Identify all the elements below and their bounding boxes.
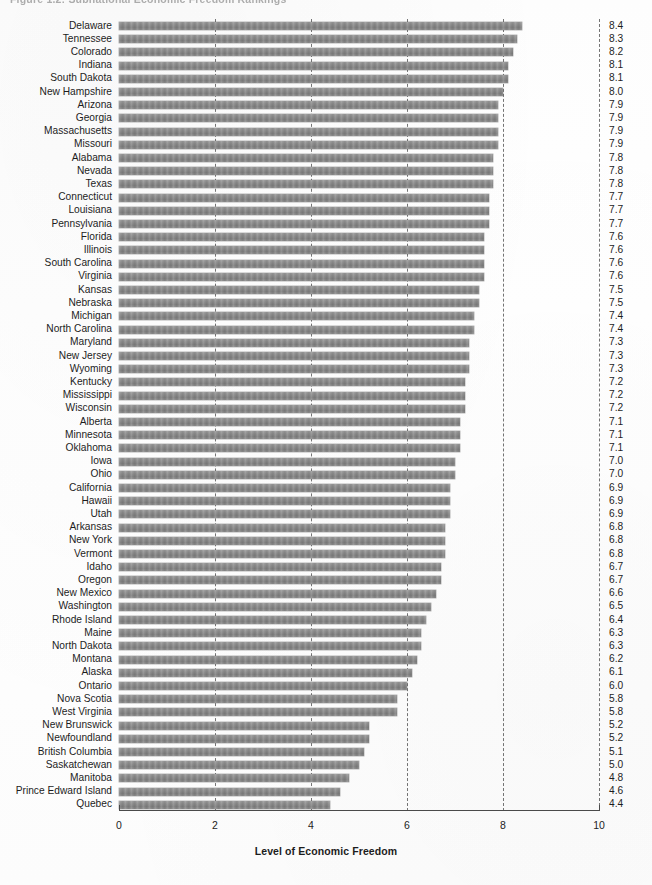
bar-value-label: 6.5 (609, 599, 623, 612)
bar (119, 128, 498, 136)
bar-row: Virginia7.6 (119, 270, 599, 283)
bar-row: Nova Scotia5.8 (119, 692, 599, 705)
bar-category-label: Nebraska (68, 296, 112, 309)
bar-value-label: 4.8 (609, 771, 623, 784)
bar-row: Arizona7.9 (119, 98, 599, 111)
bar-row: Michigan7.4 (119, 309, 599, 322)
bar-row: Pennsylvania7.7 (119, 217, 599, 230)
bar-value-label: 7.4 (609, 309, 623, 322)
bar (119, 801, 330, 809)
bar-value-label: 8.4 (609, 19, 623, 32)
bar-value-label: 6.9 (609, 494, 623, 507)
bar-value-label: 5.2 (609, 731, 623, 744)
bar-row: Texas7.8 (119, 177, 599, 190)
bar (119, 88, 503, 96)
bar (119, 365, 469, 373)
bar (119, 207, 489, 215)
bar (119, 748, 364, 756)
bar (119, 550, 445, 558)
bar-value-label: 7.3 (609, 362, 623, 375)
bar (119, 141, 498, 149)
bar-value-label: 7.5 (609, 283, 623, 296)
bar (119, 22, 522, 30)
bar-category-label: Prince Edward Island (16, 784, 112, 797)
bar-row: Massachusetts7.9 (119, 125, 599, 138)
bar-category-label: Hawaii (81, 494, 112, 507)
bar-row: Colorado8.2 (119, 45, 599, 58)
bar (119, 246, 484, 254)
bar (119, 708, 397, 716)
bar-value-label: 8.0 (609, 85, 623, 98)
bar-category-label: Manitoba (70, 771, 112, 784)
bar-category-label: Tennessee (63, 32, 112, 45)
bar-category-label: Washington (59, 599, 112, 612)
bar-row: Alabama7.8 (119, 151, 599, 164)
bar (119, 180, 493, 188)
bar (119, 75, 508, 83)
bar-row: Mississippi7.2 (119, 389, 599, 402)
bar-value-label: 7.8 (609, 164, 623, 177)
bar-row: Florida7.6 (119, 230, 599, 243)
bar-row: South Dakota8.1 (119, 72, 599, 85)
bar-row: North Dakota6.3 (119, 639, 599, 652)
bar-row: Louisiana7.7 (119, 204, 599, 217)
bar-category-label: Ohio (90, 467, 112, 480)
bar (119, 299, 479, 307)
bar-value-label: 7.7 (609, 203, 623, 216)
bar (119, 418, 460, 426)
x-tick-label-6: 6 (404, 819, 410, 831)
bar-value-label: 6.7 (609, 573, 623, 586)
bar (119, 35, 517, 43)
bar-value-label: 7.9 (609, 124, 623, 137)
bar-value-label: 7.6 (609, 230, 623, 243)
bar-value-label: 8.2 (609, 45, 623, 58)
bar (119, 431, 460, 439)
bar-row: New Jersey7.3 (119, 349, 599, 362)
bar-row: New Brunswick5.2 (119, 719, 599, 732)
bar (119, 695, 397, 703)
bar (119, 537, 445, 545)
bar-category-label: Indiana (79, 58, 112, 71)
bar (119, 167, 493, 175)
bar-category-label: Arkansas (70, 520, 112, 533)
bar-value-label: 6.1 (609, 665, 623, 678)
bar-row: Wisconsin7.2 (119, 402, 599, 415)
bar-value-label: 6.8 (609, 547, 623, 560)
bar-row: Alberta7.1 (119, 415, 599, 428)
bar-value-label: 7.2 (609, 401, 623, 414)
bar-row: North Carolina7.4 (119, 323, 599, 336)
bar (119, 524, 445, 532)
bar (119, 761, 359, 769)
bar-value-label: 6.3 (609, 639, 623, 652)
bar-category-label: New Hampshire (40, 85, 112, 98)
bar-row: Idaho6.7 (119, 560, 599, 573)
bar-row: Georgia7.9 (119, 111, 599, 124)
bar-row: Newfoundland5.2 (119, 732, 599, 745)
bar (119, 48, 513, 56)
bar-chart-plot-area: Delaware8.4Tennessee8.3Colorado8.2Indian… (119, 19, 599, 811)
bar (119, 458, 455, 466)
bar-value-label: 7.0 (609, 467, 623, 480)
bar-category-label: Rhode Island (52, 613, 112, 626)
bar-category-label: Illinois (84, 243, 112, 256)
bar-value-label: 7.9 (609, 111, 623, 124)
bar-row: Iowa7.0 (119, 455, 599, 468)
bar-category-label: Wisconsin (66, 401, 112, 414)
bar (119, 629, 421, 637)
bar-category-label: Minnesota (65, 428, 112, 441)
bar-category-label: North Dakota (52, 639, 112, 652)
bar (119, 326, 474, 334)
bar-value-label: 6.7 (609, 560, 623, 573)
bar-category-label: Louisiana (68, 203, 112, 216)
bar-value-label: 7.6 (609, 269, 623, 282)
bar-row: Ohio7.0 (119, 468, 599, 481)
bar (119, 392, 465, 400)
bar (119, 471, 455, 479)
bar-category-label: South Dakota (50, 71, 112, 84)
bar-row: Quebec4.4 (119, 798, 599, 811)
bar-value-label: 7.5 (609, 296, 623, 309)
x-axis-left-cap (119, 805, 120, 811)
bar-value-label: 7.2 (609, 388, 623, 401)
bar (119, 220, 489, 228)
bar-row: Arkansas6.8 (119, 521, 599, 534)
